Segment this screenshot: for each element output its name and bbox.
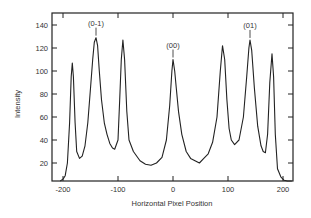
peak-label: (00) <box>166 41 180 50</box>
y-tick-label: 40 <box>40 136 48 145</box>
y-tick-label: 60 <box>40 113 48 122</box>
line-chart: -200-1000100200 20406080100120140 (0-1)(… <box>0 0 311 218</box>
plot-area: -200-1000100200 20406080100120140 (0-1)(… <box>35 13 293 194</box>
plot-frame <box>52 13 293 181</box>
x-tick-label: 200 <box>277 185 290 194</box>
y-tick-label: 140 <box>35 21 48 30</box>
x-tick-label: 100 <box>222 185 235 194</box>
x-axis-label: Horizontal Pixel Position <box>132 199 213 208</box>
y-tick-label: 120 <box>35 44 48 53</box>
x-tick-label: -100 <box>110 185 125 194</box>
x-tick-label: 0 <box>171 185 175 194</box>
peak-label: (0-1) <box>88 19 104 28</box>
peak-label: (01) <box>243 21 257 30</box>
y-tick-label: 80 <box>40 90 48 99</box>
x-tick-label: -200 <box>55 185 70 194</box>
y-tick-label: 100 <box>35 67 48 76</box>
y-tick-label: 20 <box>40 159 48 168</box>
y-axis-label: Intensity <box>13 90 22 118</box>
peak-annotations: (0-1)(00)(01) <box>88 19 257 58</box>
intensity-line <box>60 38 292 181</box>
